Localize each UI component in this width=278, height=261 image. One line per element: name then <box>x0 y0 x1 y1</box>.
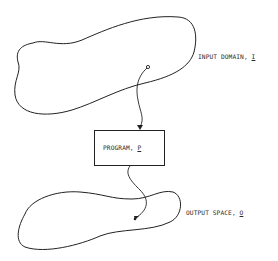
input-domain-region <box>15 17 196 114</box>
output-space-region <box>18 191 180 249</box>
program-to-output-arrow <box>128 166 146 217</box>
output-point-icon <box>134 218 137 221</box>
program-symbol: P <box>137 144 141 151</box>
input-domain-label: INPUT DOMAIN, I <box>198 53 255 60</box>
output-space-text: OUTPUT SPACE, <box>186 209 240 216</box>
input-domain-symbol: I <box>252 53 256 60</box>
program-text: PROGRAM, <box>103 144 137 151</box>
output-space-symbol: O <box>240 209 244 216</box>
input-to-program-arrow <box>137 68 147 127</box>
input-domain-text: INPUT DOMAIN, <box>198 53 252 60</box>
program-label: PROGRAM, P <box>103 144 141 151</box>
output-space-label: OUTPUT SPACE, O <box>186 209 243 216</box>
